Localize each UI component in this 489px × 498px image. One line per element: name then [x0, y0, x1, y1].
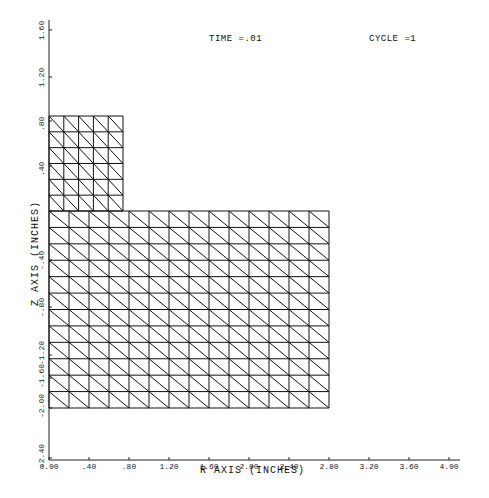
mesh-lower-block	[49, 211, 329, 408]
y-tick-label: -2.40	[37, 444, 46, 468]
x-tick-label: 2.80	[319, 462, 338, 471]
cycle-label: CYCLE =1	[369, 34, 416, 44]
y-axis-label: Z AXIS (INCHES)	[30, 201, 41, 306]
y-tick-label: -2.00	[37, 394, 46, 418]
y-tick-label: -1.20	[37, 341, 46, 365]
x-tick-label: 3.20	[359, 462, 378, 471]
x-tick-label: 1.20	[159, 462, 178, 471]
time-label: TIME =.01	[209, 34, 262, 44]
axes	[49, 20, 460, 460]
y-tick-label: -1.60	[37, 364, 46, 388]
y-tick-label: .40	[37, 162, 46, 176]
y-tick-label: 1.60	[37, 21, 46, 40]
x-tick-label: 4.00	[439, 462, 458, 471]
x-tick-label: 3.60	[399, 462, 418, 471]
x-tick-label: .80	[122, 462, 136, 471]
mesh-upper-block	[49, 116, 123, 211]
y-tick-label: 1.20	[37, 68, 46, 87]
y-tick-label: .80	[37, 117, 46, 131]
x-tick-label: .40	[82, 462, 96, 471]
mesh-plot	[0, 0, 489, 498]
x-axis-label: R AXIS (INCHES)	[200, 465, 305, 476]
